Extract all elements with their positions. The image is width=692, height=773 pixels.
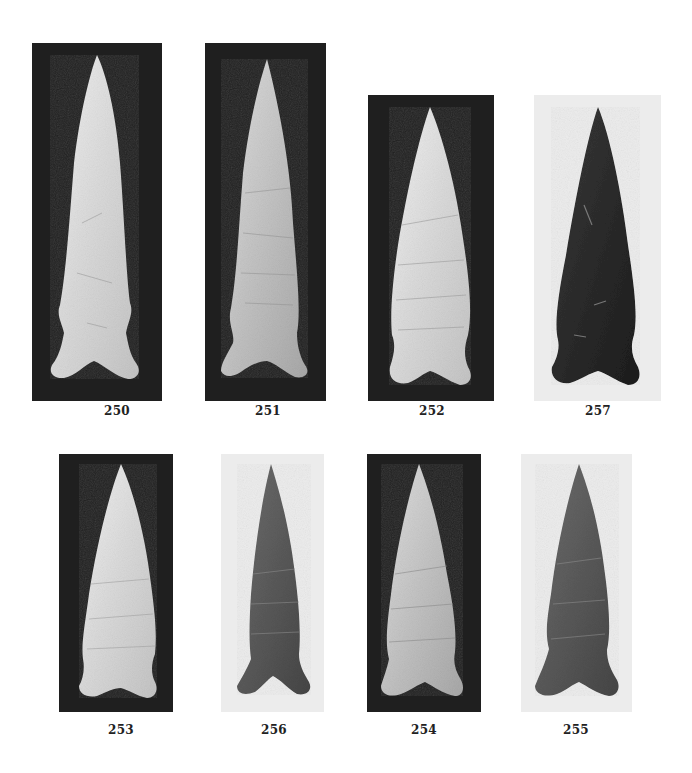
projectile-point-253 bbox=[59, 454, 173, 712]
specimen-number-256: 256 bbox=[244, 723, 304, 737]
specimen-number-257: 257 bbox=[568, 404, 628, 418]
specimen-photo-256 bbox=[221, 454, 324, 712]
specimen-photo-252 bbox=[368, 95, 494, 401]
specimen-photo-253 bbox=[59, 454, 173, 712]
specimen-number-254: 254 bbox=[394, 723, 454, 737]
projectile-point-257 bbox=[534, 95, 661, 401]
specimen-photo-251 bbox=[205, 43, 326, 401]
specimen-number-251: 251 bbox=[238, 404, 298, 418]
projectile-point-252 bbox=[368, 95, 494, 401]
projectile-point-254 bbox=[367, 454, 481, 712]
specimen-number-253: 253 bbox=[91, 723, 151, 737]
projectile-point-251 bbox=[205, 43, 326, 401]
projectile-point-255 bbox=[521, 454, 632, 712]
specimen-photo-257 bbox=[534, 95, 661, 401]
specimen-number-255: 255 bbox=[546, 723, 606, 737]
specimen-number-252: 252 bbox=[402, 404, 462, 418]
specimen-photo-255 bbox=[521, 454, 632, 712]
specimen-photo-250 bbox=[32, 43, 162, 401]
specimen-photo-254 bbox=[367, 454, 481, 712]
specimen-number-250: 250 bbox=[87, 404, 147, 418]
projectile-point-250 bbox=[32, 43, 162, 401]
projectile-point-256 bbox=[221, 454, 324, 712]
